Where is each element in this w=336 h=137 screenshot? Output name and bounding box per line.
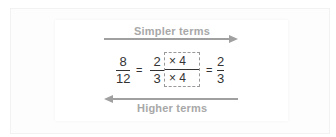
fraction-8-12: 8 12 bbox=[116, 55, 130, 86]
multiplier-bottom: × 4 bbox=[169, 71, 186, 85]
equals-sign: = bbox=[206, 64, 212, 76]
equals-sign: = bbox=[136, 64, 142, 76]
simpler-arrow-line bbox=[104, 38, 230, 40]
fraction-2-3-result: 2 3 bbox=[217, 55, 224, 86]
numerator: 2 bbox=[153, 55, 160, 69]
arrow-right-icon bbox=[229, 35, 238, 43]
numerator: 2 bbox=[217, 55, 224, 69]
multiplier-top: × 4 bbox=[169, 54, 186, 68]
numerator: 8 bbox=[120, 55, 127, 69]
multiplier-bar bbox=[165, 69, 199, 70]
higher-arrow-line bbox=[112, 98, 238, 100]
denominator: 3 bbox=[153, 72, 160, 86]
higher-terms-label: Higher terms bbox=[137, 102, 207, 114]
fraction-2-3: 2 3 bbox=[150, 55, 164, 86]
multiplier-box: × 4 × 4 bbox=[164, 52, 200, 87]
simpler-terms-label: Simpler terms bbox=[134, 25, 210, 37]
denominator: 12 bbox=[116, 72, 130, 86]
denominator: 3 bbox=[217, 72, 224, 86]
